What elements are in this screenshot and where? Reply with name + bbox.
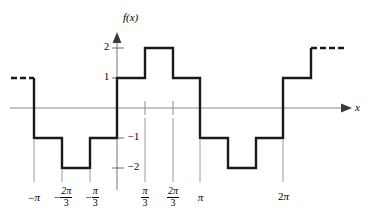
y-tick-label-neg2: −2: [128, 162, 139, 173]
fraction-numerator: π: [92, 186, 99, 198]
fraction: 2π3: [60, 186, 72, 208]
fraction-denominator: 3: [92, 198, 99, 209]
fraction: 2π3: [167, 186, 179, 208]
minus-sign: −: [54, 192, 61, 203]
x-tick-label-neg-pi: −π: [24, 192, 44, 204]
fraction-numerator: 2π: [60, 186, 72, 198]
x-tick-label-neg-2pi-3: −2π3: [48, 186, 78, 208]
x-axis-label: x: [355, 102, 360, 113]
fraction: π3: [92, 186, 99, 208]
pi-symbol: π: [283, 190, 289, 202]
x-tick-label-pi: π: [194, 192, 207, 203]
minus-sign: −: [85, 192, 92, 203]
fraction-numerator: 2π: [167, 186, 179, 198]
pi-symbol: π: [198, 191, 204, 203]
x-axis: [10, 103, 352, 112]
fraction-denominator: 3: [141, 198, 148, 209]
minus-sign: −: [28, 193, 35, 204]
y-tick-label-neg1: −1: [128, 132, 139, 143]
x-tick-label-2pi: 2π: [274, 191, 293, 202]
x-tick-label-neg-pi-3: −π3: [79, 186, 105, 208]
y-tick-label-2: 2: [104, 42, 109, 53]
fraction-denominator: 3: [167, 198, 179, 209]
y-axis-label: f(x): [123, 12, 138, 23]
tick-drop-lines: [34, 118, 283, 182]
x-tick-label-pi-3: π3: [137, 186, 153, 208]
step-function-figure: f(x) x 2 1 −1 −2 −π −2π3 −π3 π3 2π3 π 2π: [0, 0, 369, 220]
fraction-numerator: π: [141, 186, 148, 198]
x-tick-label-2pi-3: 2π3: [162, 186, 184, 208]
fraction-denominator: 3: [60, 198, 72, 209]
y-tick-label-1: 1: [104, 72, 109, 83]
fraction: π3: [141, 186, 148, 208]
pi-symbol: π: [35, 191, 41, 203]
